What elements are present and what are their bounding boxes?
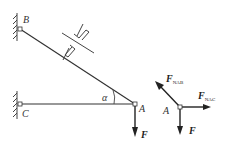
wall-support-b xyxy=(13,13,17,41)
angle-arc xyxy=(113,90,115,104)
label-f-nab: FNAB xyxy=(165,73,184,85)
label-c: C xyxy=(22,108,29,119)
section-cut-symbol xyxy=(62,24,94,60)
label-f-load: F xyxy=(140,129,148,140)
pin-b xyxy=(18,27,22,31)
force-f-arrowhead xyxy=(177,126,183,135)
force-nac-arrowhead xyxy=(203,104,211,110)
diagram-canvas: B C A α F FNAB FNAC A F xyxy=(0,0,225,155)
label-f-fbd: F xyxy=(188,125,196,136)
force-nab-arrow xyxy=(160,86,180,107)
label-a-fbd: A xyxy=(162,105,170,116)
pin-c xyxy=(18,102,22,106)
label-a: A xyxy=(138,103,146,114)
label-b: B xyxy=(23,14,29,25)
truss-diagram: B C A α F FNAB FNAC A F xyxy=(0,0,225,155)
free-body-diagram: FNAB FNAC A F xyxy=(155,73,216,136)
pin-a xyxy=(133,102,137,106)
label-alpha: α xyxy=(102,92,108,103)
bar-ab xyxy=(20,29,135,104)
wall-support-c xyxy=(13,91,17,119)
pin-a-fbd xyxy=(178,105,182,109)
load-arrow-f xyxy=(132,106,138,137)
label-f-nac: FNAC xyxy=(197,90,216,102)
